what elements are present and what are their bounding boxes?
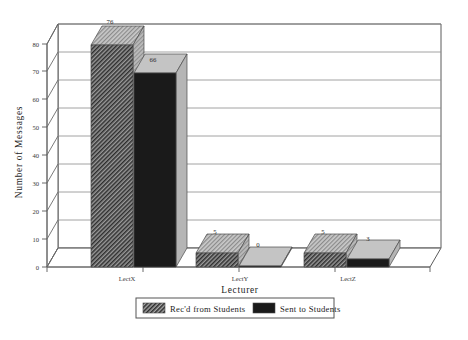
x-tick-label-lecty: LectY <box>232 275 249 282</box>
y-tick-label: 20 <box>32 208 39 215</box>
value-label: 3 <box>366 235 370 242</box>
value-label: 5 <box>213 228 217 235</box>
chart-canvas: 0 10 20 30 40 50 60 70 80 <box>0 0 468 340</box>
value-label: 66 <box>150 56 157 63</box>
y-tick-label: 80 <box>32 41 39 48</box>
y-tick-label: 0 <box>36 264 40 271</box>
y-tick-label: 30 <box>32 180 39 187</box>
x-tick-label-lectz: LectZ <box>340 275 356 282</box>
bar-lectx-sent <box>134 54 187 267</box>
legend-label-sent: Sent to Students <box>280 304 341 314</box>
legend: Rec'd from Students Sent to Students <box>136 298 341 318</box>
value-label: 76 <box>107 18 114 25</box>
y-tick-label: 50 <box>32 124 39 131</box>
legend-label-recd: Rec'd from Students <box>170 304 246 314</box>
value-label: 5 <box>321 228 325 235</box>
y-tick-labels: 0 10 20 30 40 50 60 70 80 <box>32 41 39 271</box>
bar-chart-figure: 0 10 20 30 40 50 60 70 80 <box>0 0 468 340</box>
y-tick-label: 60 <box>32 96 39 103</box>
y-axis-title: Number of Messages <box>14 106 24 198</box>
value-label: 0 <box>256 241 260 248</box>
x-axis-title: Lecturer <box>221 285 259 295</box>
y-tick-label: 70 <box>32 68 39 75</box>
y-tick-label: 10 <box>32 236 39 243</box>
y-tick-label: 40 <box>32 152 39 159</box>
legend-swatch-sent-icon <box>253 303 275 313</box>
legend-swatch-recd-icon <box>143 303 165 313</box>
x-axis <box>47 267 430 272</box>
x-tick-labels: LectX LectY LectZ <box>119 275 356 282</box>
x-tick-label-lectx: LectX <box>119 275 136 282</box>
